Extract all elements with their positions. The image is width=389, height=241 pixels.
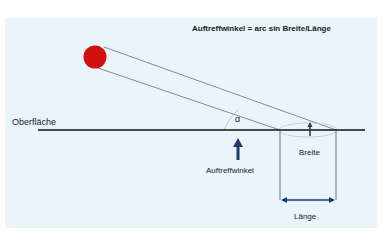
angle-label: Auftreffwinkel <box>206 166 254 175</box>
surface-label: Oberfläche <box>12 117 56 127</box>
angle-symbol: α <box>235 114 240 124</box>
left-arrow-icon <box>281 197 287 203</box>
width-label: Breite <box>299 148 320 157</box>
upper-ray-line <box>104 47 336 130</box>
diagram-graphics <box>0 0 389 241</box>
length-label: Länge <box>294 212 316 221</box>
projectile-ball-icon <box>84 46 107 69</box>
formula-text: Auftreffwinkel = arc sin Breite/Länge <box>192 24 331 33</box>
up-arrow-icon <box>233 138 243 147</box>
right-arrow-icon <box>329 197 335 203</box>
